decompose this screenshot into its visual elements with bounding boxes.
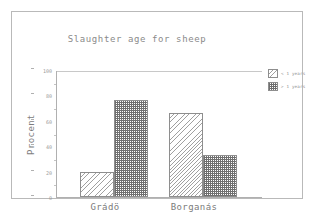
y-tick-label: 40 [34,144,52,150]
chart-legend: < 1 years > 1 years [268,69,314,95]
legend-item: > 1 years [268,82,314,91]
plot-area: 0 20 40 60 80 100 [56,71,262,198]
legend-swatch-over-1-year [268,82,278,91]
bar-borganas-under-1-year [169,113,203,197]
y-tick-label: 80 [34,93,52,99]
legend-item: < 1 years [268,69,314,78]
y-tick-label: 60 [34,119,52,125]
chart-title: Slaughter age for sheep [12,34,262,44]
bar-grado-over-1-year [114,100,148,197]
y-axis-title: Procent [26,71,38,198]
chart-frame: Slaughter age for sheep Procent 0 20 40 … [11,11,303,199]
y-tick-label: 20 [34,170,52,176]
legend-swatch-under-1-year [268,69,278,78]
bar-grado-under-1-year [80,172,114,197]
plot-top-rule [56,71,262,72]
y-tick-label: 100 [34,68,52,74]
y-axis-line [56,71,57,198]
bar-borganas-over-1-year [203,155,237,197]
legend-label: > 1 years [281,84,306,89]
x-axis-label-category-1: Borganás [148,202,240,212]
legend-label: < 1 years [281,71,306,76]
x-axis-line [56,197,262,198]
y-tick-label: 0 [34,195,52,201]
x-axis-label-category-0: Grádö [59,202,151,212]
